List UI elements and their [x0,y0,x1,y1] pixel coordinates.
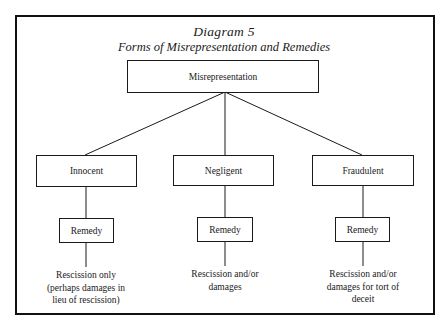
node-label: Remedy [347,225,379,235]
node-innocent: Innocent [36,155,137,187]
outcome-line: Rescission and/or [165,268,285,281]
node-label: Misrepresentation [189,72,258,82]
outcome-negligent: Rescission and/or damages [165,268,285,293]
node-remedy-fraudulent: Remedy [335,217,390,242]
connector-root-innocent [85,92,225,155]
diagram-title: Diagram 5 [0,24,448,40]
outcome-line: lieu of rescission) [26,294,146,307]
node-negligent: Negligent [173,155,274,186]
outcome-line: Rescission only [26,269,146,282]
outcome-line: damages for tort of [303,281,423,294]
node-misrepresentation: Misrepresentation [127,60,319,93]
node-label: Negligent [205,166,242,176]
node-label: Fraudulent [342,166,383,176]
outcome-innocent: Rescission only (perhaps damages in lieu… [26,269,146,307]
node-remedy-negligent: Remedy [197,217,253,242]
connector-root-fraudulent [225,92,362,155]
diagram-subtitle: Forms of Misrepresentation and Remedies [0,40,448,55]
node-label: Remedy [209,225,241,235]
node-fraudulent: Fraudulent [312,155,414,186]
outcome-line: Rescission and/or [303,268,423,281]
outcome-fraudulent: Rescission and/or damages for tort of de… [303,268,423,306]
outcome-line: (perhaps damages in [26,282,146,295]
node-label: Innocent [70,166,103,176]
outcome-line: damages [165,281,285,294]
node-label: Remedy [71,226,103,236]
outcome-line: deceit [303,293,423,306]
node-remedy-innocent: Remedy [59,218,114,243]
